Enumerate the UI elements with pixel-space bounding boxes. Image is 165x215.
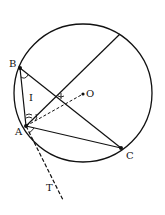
label-b: B: [9, 58, 16, 69]
label-o: O: [86, 88, 94, 99]
geometry-diagram: B A C O I T: [0, 0, 165, 215]
tangent-at-dashed: [26, 126, 63, 200]
angle-mark-a-top2: [26, 117, 32, 118]
segment-ab: [20, 68, 26, 126]
angle-mark-b: [21, 75, 28, 78]
label-t: T: [46, 182, 53, 193]
label-i: I: [29, 92, 33, 103]
point-b: [18, 66, 22, 70]
label-a: A: [14, 126, 23, 137]
point-o: [81, 92, 84, 95]
angle-mark-a-top: [26, 114, 32, 115]
label-c: C: [126, 150, 134, 161]
chord-from-a: [26, 34, 120, 126]
point-c: [119, 146, 123, 150]
angle-mark-a-tangent: [29, 128, 34, 133]
point-a: [24, 124, 28, 128]
